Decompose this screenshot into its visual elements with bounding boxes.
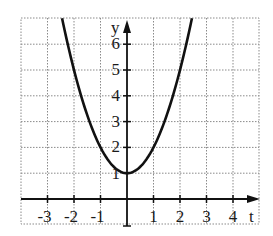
axes [21, 20, 260, 226]
ticks [48, 44, 234, 203]
x-tick-label: 2 [176, 207, 185, 226]
y-tick-label: 5 [112, 60, 121, 79]
y-tick-label: 1 [112, 164, 121, 183]
x-tick-label: 3 [202, 207, 211, 226]
x-tick-label: 4 [229, 207, 238, 226]
y-axis-label: y [111, 18, 120, 37]
tick-labels: -3-2-11234123456 [37, 34, 237, 226]
y-tick-label: 6 [112, 34, 121, 53]
y-tick-label: 4 [112, 86, 121, 105]
grid [21, 18, 259, 224]
x-tick-label: 1 [149, 207, 158, 226]
x-tick-label: -2 [64, 207, 78, 226]
y-tick-label: 3 [112, 112, 121, 131]
x-tick-label: -3 [37, 207, 51, 226]
y-tick-label: 2 [112, 137, 121, 156]
x-tick-label: -1 [90, 207, 104, 226]
chart: -3-2-11234123456 t y [0, 0, 273, 236]
x-axis-label: t [249, 207, 254, 226]
